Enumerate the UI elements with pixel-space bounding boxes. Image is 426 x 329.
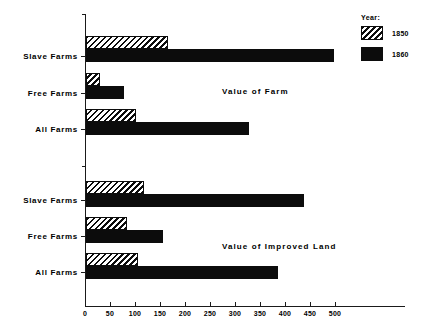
bar-upper-all-farms-1850 (86, 109, 136, 122)
bar-lower-free-farms-1850 (86, 217, 127, 230)
x-axis-tick (160, 302, 161, 307)
x-axis-tick-label: 100 (129, 310, 142, 317)
upper-category-label-free-farms: Free Farms (28, 89, 85, 98)
upper-category-label-slave-farms: Slave Farms (23, 52, 85, 61)
bar-lower-slave-farms-1860 (86, 194, 304, 207)
lower-category-label-free-farms: Free Farms (28, 232, 85, 241)
bar-upper-free-farms-1850 (86, 73, 100, 86)
bar-upper-free-farms-1860 (86, 86, 124, 99)
bar-lower-free-farms-1860 (86, 230, 163, 243)
x-axis-tick (85, 302, 86, 307)
x-axis-tick (185, 302, 186, 307)
x-axis-tick-label: 150 (154, 310, 167, 317)
bar-lower-all-farms-1850 (86, 253, 138, 266)
lower-category-label-all-farms: All Farms (35, 268, 85, 277)
x-axis-tick-label: 200 (179, 310, 192, 317)
x-axis-tick-label: 400 (279, 310, 292, 317)
bar-chart-figure: Slave Farms Free Farms All Farms Value o… (0, 0, 426, 329)
x-axis-tick (285, 302, 286, 307)
lower-panel-caption: Value of Improved Land (222, 242, 336, 251)
bar-lower-all-farms-1860 (86, 266, 278, 279)
x-axis-tick-label: 300 (229, 310, 242, 317)
upper-category-label-all-farms: All Farms (35, 125, 85, 134)
bar-upper-all-farms-1860 (86, 122, 249, 135)
legend-title: Year: (361, 14, 423, 21)
legend: Year: 1850 1860 (361, 14, 423, 68)
x-axis-tick-label: 500 (329, 310, 342, 317)
legend-label-1850: 1850 (392, 30, 409, 37)
x-axis-line (85, 306, 405, 307)
legend-swatch-1860 (361, 47, 383, 61)
x-axis-tick-label: 450 (304, 310, 317, 317)
x-axis-tick (335, 302, 336, 307)
x-axis-tick-label: 50 (106, 310, 114, 317)
legend-item-1860: 1860 (361, 47, 423, 61)
legend-label-1860: 1860 (392, 51, 409, 58)
x-axis-tick (310, 302, 311, 307)
y-axis-tick-top (82, 14, 86, 15)
legend-swatch-1850 (361, 26, 383, 40)
x-axis-tick (260, 302, 261, 307)
bar-upper-slave-farms-1850 (86, 36, 168, 49)
x-axis-tick (110, 302, 111, 307)
y-axis-tick-junction (82, 166, 86, 167)
x-axis-tick (135, 302, 136, 307)
upper-panel-caption: Value of Farm (222, 87, 289, 96)
lower-category-label-slave-farms: Slave Farms (23, 196, 85, 205)
x-axis-tick-label: 250 (204, 310, 217, 317)
bar-lower-slave-farms-1850 (86, 181, 144, 194)
bar-upper-slave-farms-1860 (86, 49, 334, 62)
x-axis-tick-label: 350 (254, 310, 267, 317)
x-axis-tick (235, 302, 236, 307)
legend-item-1850: 1850 (361, 26, 423, 40)
x-axis-tick-label: 0 (83, 310, 87, 317)
x-axis-tick (210, 302, 211, 307)
